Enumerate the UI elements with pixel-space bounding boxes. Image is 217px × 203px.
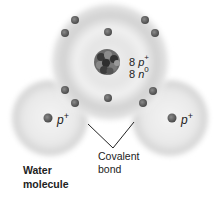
bond-pointer-lines (88, 122, 134, 148)
title-line-1: Water (23, 163, 69, 177)
hydrogen-left-label: p+ (57, 111, 69, 127)
bond-label-line-1: Covalent (98, 150, 139, 163)
oxygen-neutrons-label: 8 n0 (129, 65, 149, 80)
hydrogen-left-charge: + (64, 111, 69, 121)
electron (104, 28, 112, 36)
covalent-bond-label: Covalent bond (98, 150, 139, 176)
electron (61, 86, 69, 94)
electron (141, 16, 149, 24)
electron (139, 99, 147, 107)
hydrogen-right-charge: + (188, 111, 193, 121)
electron (104, 94, 112, 102)
oxygen-nucleus (94, 49, 120, 75)
hydrogen-left-symbol: p (57, 113, 64, 127)
electron-clouds (8, 0, 212, 160)
electron (71, 16, 79, 24)
bond-label-line-2: bond (98, 163, 139, 176)
protons-charge: + (144, 53, 149, 62)
electron (151, 29, 159, 37)
title-line-2: molecule (23, 177, 69, 191)
electron (149, 87, 157, 95)
electron (71, 99, 79, 107)
neutrons-charge: 0 (144, 65, 148, 74)
hydrogen-right-symbol: p (181, 113, 188, 127)
diagram-title: Water molecule (23, 163, 69, 191)
neutrons-count: 8 (129, 68, 135, 80)
electron (61, 29, 69, 37)
hydrogen-right-label: p+ (181, 111, 193, 127)
hydrogen-left-proton (44, 114, 53, 123)
hydrogen-right-proton (168, 114, 177, 123)
